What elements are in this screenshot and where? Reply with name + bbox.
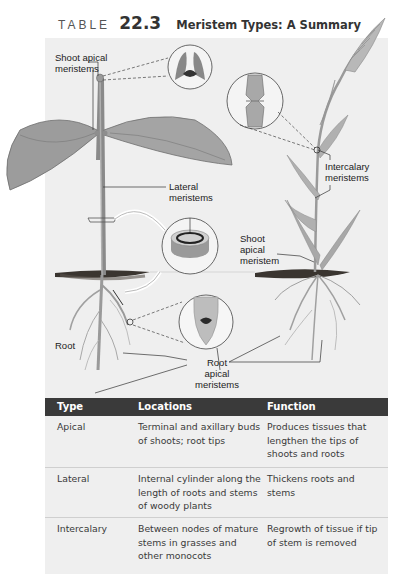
- table-row-apical: Apical Terminal and axillary buds of sho…: [45, 416, 388, 467]
- cell-type: Apical: [57, 420, 127, 434]
- table-header: Type Locations Function: [45, 398, 388, 416]
- table-row-lateral: Lateral Internal cylinder along the leng…: [45, 467, 388, 518]
- cell-locations: Internal cylinder along the length of ro…: [138, 472, 263, 513]
- shoot-tip-detail: [103, 45, 212, 89]
- intercalary-detail: [227, 73, 315, 150]
- cell-locations: Between nodes of mature stems in grasses…: [138, 522, 263, 563]
- header-type: Type: [57, 401, 127, 412]
- label-root: Root: [55, 340, 75, 351]
- cell-function: Thickens roots and stems: [267, 472, 385, 499]
- label-lateral-meristems: Lateral meristems: [169, 181, 213, 203]
- header-locations: Locations: [138, 401, 263, 412]
- header-function: Function: [267, 401, 385, 412]
- root-tip-detail: [133, 295, 233, 349]
- label-shoot-apical-meristem: Shoot apical meristem: [240, 233, 279, 266]
- label-shoot-apical-meristems: Shoot apical meristems: [55, 52, 107, 74]
- cell-type: Intercalary: [57, 522, 127, 536]
- soil-right: [255, 269, 350, 278]
- table-row-intercalary: Intercalary Between nodes of mature stem…: [45, 517, 388, 574]
- cell-locations: Terminal and axillary buds of shoots; ro…: [138, 420, 263, 447]
- lateral-cross-section-detail: [115, 212, 218, 292]
- cell-function: Regrowth of tissue if tip of stem is rem…: [267, 522, 385, 549]
- label-intercalary-meristems: Intercalary meristems: [325, 161, 369, 183]
- label-root-apical-meristems: Root apical meristems: [192, 357, 242, 390]
- cell-function: Produces tissues that lengthen the tips …: [267, 420, 385, 461]
- cell-type: Lateral: [57, 472, 127, 486]
